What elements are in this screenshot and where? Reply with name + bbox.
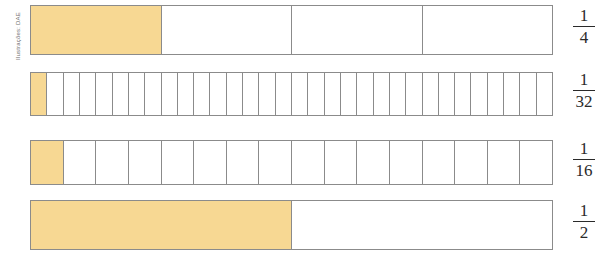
fraction-bar [30, 140, 553, 185]
bar-segment-empty [162, 73, 178, 115]
bar-segment-empty [292, 73, 308, 115]
bar-segment-empty [308, 73, 324, 115]
bar-segment-empty [96, 141, 129, 184]
bar-segment-empty [520, 73, 536, 115]
bar-segment-empty [227, 141, 260, 184]
bar-segment-empty [455, 73, 471, 115]
bar-segment-empty [488, 73, 504, 115]
bar-segment-empty [47, 73, 63, 115]
bar-segment-empty [471, 73, 487, 115]
bar-segment-empty [129, 141, 162, 184]
bar-segment-empty [439, 73, 455, 115]
bar-segment-empty [162, 141, 195, 184]
fraction-bar [30, 5, 553, 55]
bar-segment-empty [390, 73, 406, 115]
bar-segment-empty [341, 73, 357, 115]
fraction-label: 1 4 [566, 6, 602, 47]
bar-segment-empty [390, 141, 423, 184]
fraction-denominator: 16 [566, 161, 602, 180]
fraction-rule [573, 90, 595, 91]
fraction-bar [30, 72, 553, 116]
bar-segment-empty [423, 141, 456, 184]
bar-segment-empty [194, 73, 210, 115]
fraction-numerator: 1 [566, 70, 602, 89]
fraction-label: 1 2 [566, 201, 602, 242]
fraction-bars-figure: Ilustrações: DAE 1 4 1 32 1 16 1 2 [0, 0, 608, 255]
bar-segment-empty [96, 73, 112, 115]
bar-segment-empty [64, 73, 80, 115]
bar-segment-filled [31, 141, 64, 184]
fraction-bar [30, 200, 553, 250]
bar-segment-empty [520, 141, 552, 184]
bar-segment-empty [64, 141, 97, 184]
fraction-numerator: 1 [566, 201, 602, 220]
fraction-label: 1 32 [566, 70, 602, 111]
bar-segment-empty [259, 141, 292, 184]
bar-segment-empty [537, 73, 552, 115]
bar-segment-empty [292, 6, 423, 54]
bar-segment-empty [227, 73, 243, 115]
bar-segment-empty [210, 73, 226, 115]
bar-segment-empty [374, 73, 390, 115]
bar-segment-empty [194, 141, 227, 184]
fraction-label: 1 16 [566, 139, 602, 180]
bar-segment-empty [292, 201, 552, 249]
bar-segment-empty [162, 6, 293, 54]
fraction-denominator: 2 [566, 223, 602, 242]
bar-segment-empty [145, 73, 161, 115]
bar-segment-empty [129, 73, 145, 115]
fraction-rule [573, 159, 595, 160]
bar-segment-empty [292, 141, 325, 184]
fraction-numerator: 1 [566, 6, 602, 25]
bar-segment-empty [325, 141, 358, 184]
bar-segment-empty [113, 73, 129, 115]
bar-segment-filled [31, 201, 292, 249]
bar-segment-empty [504, 73, 520, 115]
bar-segment-empty [80, 73, 96, 115]
bar-segment-empty [423, 6, 553, 54]
bar-segment-empty [488, 141, 521, 184]
fraction-rule [573, 221, 595, 222]
bar-segment-empty [423, 73, 439, 115]
illustration-credit: Ilustrações: DAE [12, 6, 24, 66]
bar-segment-empty [276, 73, 292, 115]
fraction-numerator: 1 [566, 139, 602, 158]
bar-segment-empty [357, 73, 373, 115]
fraction-denominator: 4 [566, 28, 602, 47]
bar-segment-empty [455, 141, 488, 184]
bar-segment-empty [325, 73, 341, 115]
bar-segment-empty [178, 73, 194, 115]
bar-segment-empty [259, 73, 275, 115]
bar-segment-empty [243, 73, 259, 115]
fraction-denominator: 32 [566, 92, 602, 111]
bar-segment-filled [31, 6, 162, 54]
bar-segment-empty [357, 141, 390, 184]
bar-segment-empty [406, 73, 422, 115]
bar-segment-filled [31, 73, 47, 115]
fraction-rule [573, 26, 595, 27]
